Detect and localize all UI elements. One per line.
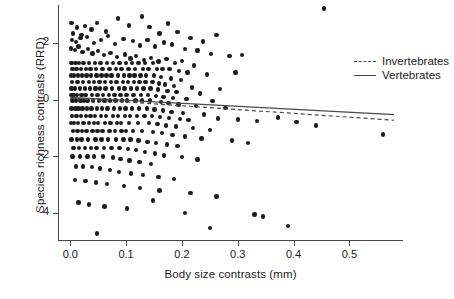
legend-item-invertebrates: Invertebrates bbox=[354, 55, 454, 69]
y-tick-label: 0 bbox=[23, 92, 49, 104]
x-tick-mark bbox=[182, 241, 183, 246]
x-tick-mark bbox=[126, 241, 127, 246]
x-tick-mark bbox=[349, 241, 350, 246]
regression-line-invertebrates bbox=[70, 98, 394, 120]
x-tick-label: 0.2 bbox=[162, 248, 202, 260]
legend-label: Invertebrates bbox=[382, 55, 449, 67]
y-tick-label: 2 bbox=[23, 35, 49, 47]
x-tick-label: 0.0 bbox=[50, 248, 90, 260]
x-axis-line bbox=[58, 240, 403, 241]
legend-item-vertebrates: Vertebrates bbox=[354, 69, 454, 83]
x-tick-label: 0.5 bbox=[329, 248, 369, 260]
legend-line-icon bbox=[354, 61, 376, 62]
x-tick-label: 0.4 bbox=[274, 248, 314, 260]
x-tick-mark bbox=[70, 241, 71, 246]
legend: InvertebratesVertebrates bbox=[354, 55, 454, 83]
x-tick-label: 0.3 bbox=[218, 248, 258, 260]
x-tick-mark bbox=[294, 241, 295, 246]
legend-line-icon bbox=[354, 75, 376, 76]
regression-line-vertebrates bbox=[70, 97, 394, 114]
x-tick-mark bbox=[238, 241, 239, 246]
y-tick-label: -2 bbox=[23, 148, 49, 160]
legend-label: Vertebrates bbox=[382, 69, 441, 81]
regression-line-group bbox=[58, 5, 403, 240]
plot-area: 20-2-4 0.00.10.20.30.40.5 InvertebratesV… bbox=[58, 5, 403, 240]
x-tick-label: 0.1 bbox=[106, 248, 146, 260]
y-tick-label: -4 bbox=[23, 205, 49, 217]
x-axis-title: Body size contrasts (mm) bbox=[58, 268, 403, 280]
